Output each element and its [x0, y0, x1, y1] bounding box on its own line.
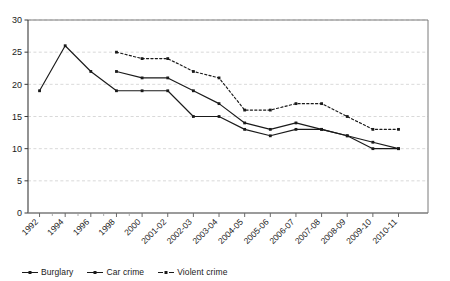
data-point-burglary-1996 — [89, 70, 92, 73]
legend-item-car-crime[interactable]: Car crime — [87, 267, 144, 277]
data-point-burglary-2006-07 — [295, 128, 298, 131]
data-point-violent-crime-2010-11 — [397, 128, 400, 131]
xtick-label-2009-10: 2009-10 — [344, 217, 373, 246]
data-point-burglary-2009-10 — [371, 147, 374, 150]
chart-canvas: 051015202530199219941996199820002001-022… — [0, 0, 450, 281]
xtick-label-2001-02: 2001-02 — [139, 217, 168, 246]
data-point-violent-crime-2009-10 — [371, 128, 374, 131]
data-point-burglary-2000 — [141, 89, 144, 92]
data-point-violent-crime-2006-07 — [295, 102, 298, 105]
data-point-car-crime-2000 — [141, 77, 144, 80]
ytick-label-0: 0 — [17, 208, 22, 218]
data-point-burglary-2005-06 — [269, 134, 272, 137]
data-point-car-crime-2006-07 — [295, 122, 298, 125]
data-point-burglary-1992 — [38, 89, 41, 92]
data-point-burglary-2003-04 — [218, 115, 221, 118]
xtick-label-2006-07: 2006-07 — [267, 217, 296, 246]
ytick-label-20: 20 — [12, 80, 22, 90]
data-point-burglary-2001-02 — [166, 89, 169, 92]
ytick-label-25: 25 — [12, 47, 22, 57]
xtick-label-2007-08: 2007-08 — [293, 217, 322, 246]
data-point-car-crime-2003-04 — [218, 102, 221, 105]
legend-label-burglary: Burglary — [41, 267, 73, 277]
data-point-burglary-1994 — [64, 44, 67, 47]
ytick-label-30: 30 — [12, 15, 22, 25]
legend-label-violent-crime: Violent crime — [177, 267, 227, 277]
xtick-label-2003-04: 2003-04 — [190, 217, 219, 246]
data-point-violent-crime-1998 — [115, 51, 118, 54]
legend-label-car-crime: Car crime — [106, 267, 144, 277]
ytick-label-5: 5 — [17, 176, 22, 186]
ytick-label-15: 15 — [12, 112, 22, 122]
xtick-label-2000: 2000 — [122, 217, 143, 238]
legend-key-dashed-violent-crime — [158, 268, 174, 277]
chart-legend: Burglary Car crime Violent crime — [22, 267, 227, 277]
legend-item-violent-crime[interactable]: Violent crime — [158, 267, 227, 277]
data-point-burglary-1998 — [115, 89, 118, 92]
data-point-violent-crime-2000 — [141, 57, 144, 60]
data-point-car-crime-2008-09 — [346, 134, 349, 137]
data-point-car-crime-2005-06 — [269, 128, 272, 131]
data-point-car-crime-2007-08 — [320, 128, 323, 131]
data-point-car-crime-1998 — [115, 70, 118, 73]
data-point-burglary-2004-05 — [243, 128, 246, 131]
data-point-burglary-2002-03 — [192, 115, 195, 118]
data-point-violent-crime-2008-09 — [346, 115, 349, 118]
crime-trends-line-chart: 051015202530199219941996199820002001-022… — [0, 0, 450, 281]
xtick-label-1998: 1998 — [96, 217, 117, 238]
legend-item-burglary[interactable]: Burglary — [22, 267, 73, 277]
legend-key-solid-car-crime — [87, 268, 103, 277]
xtick-label-1996: 1996 — [71, 217, 92, 238]
data-point-violent-crime-2005-06 — [269, 109, 272, 112]
data-point-car-crime-2002-03 — [192, 89, 195, 92]
data-point-car-crime-2004-05 — [243, 122, 246, 125]
data-point-violent-crime-2004-05 — [243, 109, 246, 112]
xtick-label-2010-11: 2010-11 — [370, 217, 399, 246]
data-point-car-crime-2009-10 — [371, 141, 374, 144]
legend-key-solid-burglary — [22, 268, 38, 277]
data-point-violent-crime-2007-08 — [320, 102, 323, 105]
xtick-label-2002-03: 2002-03 — [165, 217, 194, 246]
xtick-label-2004-05: 2004-05 — [216, 217, 245, 246]
data-point-violent-crime-2001-02 — [166, 57, 169, 60]
xtick-label-2008-09: 2008-09 — [319, 217, 348, 246]
series-line-burglary — [40, 46, 399, 149]
data-point-violent-crime-2002-03 — [192, 70, 195, 73]
xtick-label-1994: 1994 — [45, 217, 66, 238]
ytick-label-10: 10 — [12, 144, 22, 154]
data-point-car-crime-2010-11 — [397, 147, 400, 150]
data-point-car-crime-2001-02 — [166, 77, 169, 80]
data-point-violent-crime-2003-04 — [218, 77, 221, 80]
xtick-label-1992: 1992 — [20, 217, 41, 238]
xtick-label-2005-06: 2005-06 — [242, 217, 271, 246]
